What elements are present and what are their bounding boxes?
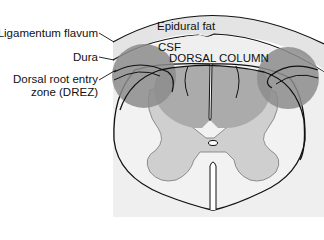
label-drez-line2: zone (DREZ)	[31, 86, 98, 99]
leader-dura	[99, 57, 114, 60]
dorsal-median-septum	[209, 64, 212, 121]
label-drez-line1: Dorsal root entry	[13, 73, 98, 86]
ventral-median-fissure	[210, 162, 216, 210]
label-epidural-fat: Epidural fat	[157, 20, 215, 33]
label-dura: Dura	[73, 51, 98, 64]
leader-ligamentum-flavum	[99, 33, 114, 42]
central-canal	[209, 141, 218, 146]
label-ligamentum-flavum: Ligamentum flavum	[0, 27, 98, 40]
label-dorsal-column: DORSAL COLUMN	[169, 52, 269, 65]
